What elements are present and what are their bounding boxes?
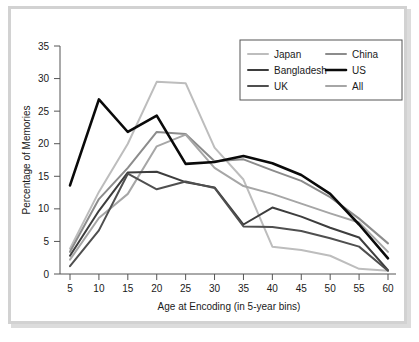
x-tick-label: 30 xyxy=(209,283,221,294)
series-line-uk xyxy=(70,174,388,271)
x-tick-label: 35 xyxy=(238,283,250,294)
x-tick-label: 10 xyxy=(93,283,105,294)
x-tick-label: 50 xyxy=(325,283,337,294)
x-tick-label: 5 xyxy=(67,283,73,294)
line-chart: 0510152025303551015202530354045505560Age… xyxy=(0,0,419,342)
legend-label-china: China xyxy=(352,49,379,60)
legend-label-us: US xyxy=(352,65,366,76)
legend-label-all: All xyxy=(352,81,363,92)
legend-label-uk: UK xyxy=(274,81,288,92)
x-tick-label: 40 xyxy=(267,283,279,294)
x-tick-label: 55 xyxy=(354,283,366,294)
legend-label-bangladesh: Bangladesh xyxy=(274,65,327,76)
legend-label-japan: Japan xyxy=(274,49,301,60)
y-axis-title: Percentage of Memories xyxy=(21,106,32,215)
chart-canvas: 0510152025303551015202530354045505560Age… xyxy=(0,0,419,342)
y-tick-label: 15 xyxy=(38,171,50,182)
y-tick-label: 20 xyxy=(38,138,50,149)
x-axis-title: Age at Encoding (in 5-year bins) xyxy=(158,301,301,312)
y-tick-label: 5 xyxy=(43,236,49,247)
x-tick-label: 25 xyxy=(180,283,192,294)
y-tick-label: 35 xyxy=(38,41,50,52)
y-tick-label: 30 xyxy=(38,73,50,84)
y-tick-label: 25 xyxy=(38,106,50,117)
y-tick-label: 10 xyxy=(38,203,50,214)
y-tick-label: 0 xyxy=(43,269,49,280)
x-tick-label: 20 xyxy=(151,283,163,294)
x-tick-label: 45 xyxy=(296,283,308,294)
series-line-bangladesh xyxy=(70,172,388,270)
x-tick-label: 60 xyxy=(382,283,394,294)
x-tick-label: 15 xyxy=(122,283,134,294)
